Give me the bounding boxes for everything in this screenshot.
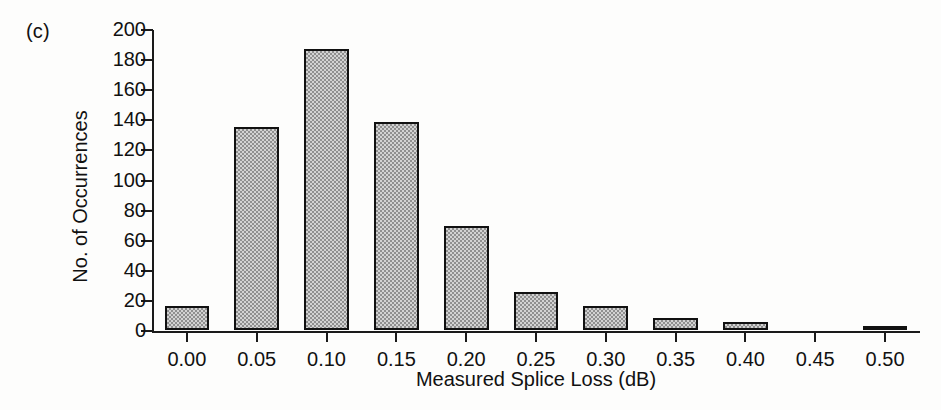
y-tick-label: 160 <box>86 78 146 101</box>
x-tick-mark <box>465 331 467 342</box>
x-tick-mark <box>884 331 886 342</box>
bar <box>374 122 419 330</box>
x-tick-mark <box>395 331 397 342</box>
x-tick-mark <box>675 331 677 342</box>
bar <box>863 326 908 331</box>
y-tick-label: 100 <box>86 169 146 192</box>
y-tick-label: 20 <box>86 289 146 312</box>
plot-area: 020406080100120140160180200 0.000.050.10… <box>152 30 920 331</box>
x-tick-mark <box>605 331 607 342</box>
bar <box>304 49 349 330</box>
x-tick-mark <box>814 331 816 342</box>
bar <box>444 226 489 330</box>
x-axis-title: Measured Splice Loss (dB) <box>152 368 920 391</box>
bar <box>165 306 210 330</box>
y-tick-label: 80 <box>86 199 146 222</box>
bar <box>583 306 628 330</box>
x-tick-mark <box>326 331 328 342</box>
bar <box>653 318 698 330</box>
y-tick-label: 200 <box>86 18 146 41</box>
y-tick-label: 140 <box>86 108 146 131</box>
y-tick-label: 40 <box>86 259 146 282</box>
y-tick-label: 180 <box>86 48 146 71</box>
x-tick-mark <box>256 331 258 342</box>
y-tick-label: 0 <box>86 319 146 342</box>
bar <box>514 292 559 330</box>
figure-panel-c: (c) No. of Occurrences 02040608010012014… <box>0 0 941 410</box>
panel-label: (c) <box>26 20 50 43</box>
bar <box>723 322 768 330</box>
x-tick-mark <box>744 331 746 342</box>
bar <box>234 127 279 330</box>
x-tick-mark <box>186 331 188 342</box>
y-tick-label: 120 <box>86 138 146 161</box>
x-tick-mark <box>535 331 537 342</box>
y-tick-label: 60 <box>86 229 146 252</box>
